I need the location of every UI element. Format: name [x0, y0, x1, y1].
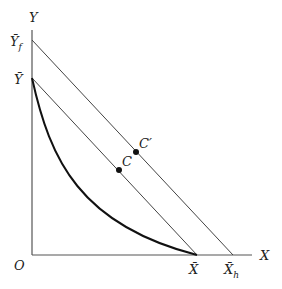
- x-bar-label: X̄: [188, 262, 199, 277]
- y-bar-f-label: Ȳf: [10, 34, 24, 52]
- y-axis-label: Y: [29, 10, 39, 25]
- y-bar-label: Ȳ: [14, 72, 24, 87]
- x-bar-h-label: X̄h: [223, 262, 239, 280]
- outer-budget-line: [32, 40, 233, 255]
- origin-label: O: [14, 258, 25, 273]
- inner-budget-line: [32, 78, 197, 255]
- point-c-label: C: [122, 154, 132, 169]
- x-axis-label: X: [259, 248, 270, 263]
- point-c-prime-label: C′: [139, 136, 152, 151]
- diagram-canvas: Y X O Ȳf Ȳ X̄ X̄h C C′: [0, 0, 282, 289]
